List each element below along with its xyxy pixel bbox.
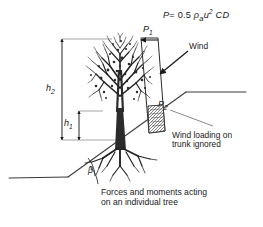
dimension-line-h1 (79, 111, 103, 140)
label-p2-sub: 2 (164, 104, 168, 111)
label-h2: h2 (46, 83, 55, 95)
figure-forces-on-tree: P= 0.5 ρau2 CD P1 P2 h2 h1 β Wind Wind l… (0, 0, 263, 227)
note-trunk-loading-line2: trunk ignored (172, 140, 232, 149)
wind-force-profile-icon (141, 38, 165, 133)
note-trunk-loading: Wind loading on trunk ignored (172, 131, 232, 150)
label-h1: h1 (64, 118, 73, 130)
leader-line-icon (170, 110, 213, 126)
figure-caption: Forces and moments acting on an individu… (101, 188, 207, 207)
label-h1-sub: 1 (69, 123, 73, 130)
formula-velocity-exponent: 2 (209, 8, 213, 15)
label-wind: Wind (189, 42, 208, 51)
label-beta-angle: β (88, 166, 93, 176)
formula-wind-pressure: P= 0.5 ρau2 CD (163, 8, 229, 23)
label-p1: P1 (143, 24, 153, 36)
formula-drag: CD (216, 10, 230, 20)
label-p2: P2 (158, 99, 168, 111)
label-h2-sub: 2 (51, 88, 55, 95)
arrow-down-left-icon (160, 51, 188, 74)
label-p1-sub: 1 (149, 29, 153, 36)
figure-caption-line2: on an individual tree (101, 198, 207, 208)
formula-coefficient: 0.5 (178, 10, 191, 20)
